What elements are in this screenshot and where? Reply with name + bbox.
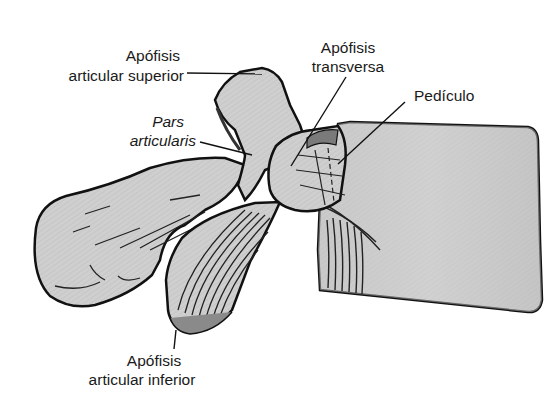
label-inf-line2: articular inferior — [62, 370, 222, 389]
label-transv-line1: Apófisis — [308, 38, 388, 57]
label-pars-articularis: Pars articularis — [96, 112, 196, 150]
label-transv-line2: transversa — [308, 57, 388, 76]
label-pars-line1: Pars — [96, 112, 196, 131]
label-superior-articular-process-line2: articular superior — [36, 66, 184, 85]
label-sup-line1: Apófisis — [88, 46, 188, 65]
label-pedicle: Pedículo — [414, 86, 474, 105]
vertebra-illustration — [0, 0, 560, 401]
label-superior-articular-process: Apófisis — [88, 46, 188, 65]
label-pars-line2: articularis — [96, 131, 196, 150]
label-inf-line1: Apófisis — [62, 351, 222, 370]
leader-line-inferior — [174, 330, 176, 349]
label-pedic-line1: Pedículo — [414, 86, 474, 105]
leader-line-superior — [187, 73, 262, 74]
label-transverse-process: Apófisis transversa — [308, 38, 388, 76]
label-sup-line2: articular superior — [36, 66, 184, 85]
vertebra-diagram: Apófisis articular superior Apófisis tra… — [0, 0, 560, 401]
label-inferior-articular-process: Apófisis articular inferior — [62, 351, 222, 389]
